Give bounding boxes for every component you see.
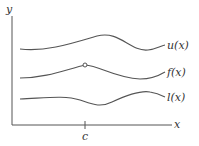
upper-curve-label: u(x) [167,39,189,52]
middle-curve [20,65,165,79]
c-tick-label: c [82,130,88,143]
y-axis-label: y [5,3,13,16]
lower-curve [20,92,165,105]
lower-curve-label: l(x) [167,91,185,104]
x-axis-label: x [174,118,181,131]
axes [12,16,172,129]
upper-curve [20,35,165,50]
middle-curve-label: f(x) [166,66,186,79]
hole-point [83,63,87,67]
squeeze-diagram: y x c u(x) f(x) l(x) [0,0,199,146]
